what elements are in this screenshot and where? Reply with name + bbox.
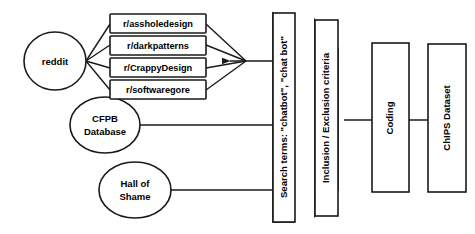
connector-reddit-assholedesign: [86, 24, 110, 61]
subreddit-box-softwaregore[interactable]: r/softwaregore: [110, 80, 206, 99]
reddit-label: reddit: [42, 56, 69, 67]
subreddit-box-assholedesign[interactable]: r/assholedesign: [110, 14, 206, 33]
source-node-cfpb-database[interactable]: CFPB Database: [70, 97, 140, 153]
flow-diagram: reddit CFPB Database Hall of Shame r/ass…: [0, 0, 475, 234]
hallofshame-label-line1: Hall of: [120, 178, 150, 189]
connector-reddit-darkpatterns: [86, 45, 110, 61]
stage-box-coding[interactable]: Coding: [372, 43, 409, 192]
source-node-hall-of-shame[interactable]: Hall of Shame: [99, 162, 171, 218]
subreddit-box-darkpatterns[interactable]: r/darkpatterns: [110, 36, 206, 55]
darkpatterns-label: r/darkpatterns: [127, 41, 189, 51]
connector-softwaregore-merge: [206, 61, 246, 90]
crappydesign-label: r/CrappyDesign: [124, 63, 193, 73]
connector-darkpatterns-merge: [206, 45, 246, 61]
coding-label: Coding: [384, 101, 395, 134]
stage-box-search-terms[interactable]: Search terms: "chatbot", "chat bot": [273, 13, 295, 222]
diagram-canvas: reddit CFPB Database Hall of Shame r/ass…: [0, 0, 475, 234]
reddit-to-subreddit-connectors: [86, 24, 110, 90]
inclusion-exclusion-label: Inclusion / Exclusion criteria: [320, 52, 331, 183]
connector-assholedesign-merge: [206, 24, 246, 61]
stage-box-inclusion-exclusion[interactable]: Inclusion / Exclusion criteria: [315, 20, 338, 216]
connector-reddit-softwaregore: [86, 61, 110, 90]
chips-dataset-label: ChIPS Dataset: [441, 84, 452, 150]
cfpb-label-line1: CFPB: [92, 113, 118, 124]
assholedesign-label: r/assholedesign: [123, 19, 193, 29]
subreddit-convergence-connectors: [206, 24, 273, 90]
hallofshame-label-line2: Shame: [119, 191, 150, 202]
source-node-reddit[interactable]: reddit: [24, 32, 86, 90]
subreddit-box-crappydesign[interactable]: r/CrappyDesign: [110, 58, 206, 77]
cfpb-label-line2: Database: [84, 126, 126, 137]
softwaregore-label: r/softwaregore: [126, 85, 190, 95]
search-terms-label: Search terms: "chatbot", "chat bot": [278, 36, 289, 198]
stage-box-chips-dataset[interactable]: ChIPS Dataset: [428, 44, 466, 192]
